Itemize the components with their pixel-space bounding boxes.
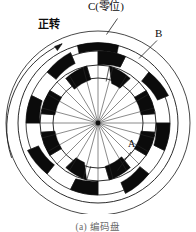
encoder-disc-graphic (0, 0, 196, 232)
label-track-a: A (128, 139, 135, 149)
label-track-b: B (155, 28, 162, 39)
figure-caption: (a) 编码盘 (0, 219, 196, 232)
label-forward-rotation: 正转 (38, 19, 60, 30)
encoder-disc-figure: C(零位) 正转 B A (a) 编码盘 (0, 0, 196, 232)
leader-line-b (139, 41, 157, 59)
label-c-zero-position: C(零位) (88, 1, 124, 12)
disc-center-hub (96, 121, 101, 126)
rotation-arrowhead (55, 44, 63, 51)
